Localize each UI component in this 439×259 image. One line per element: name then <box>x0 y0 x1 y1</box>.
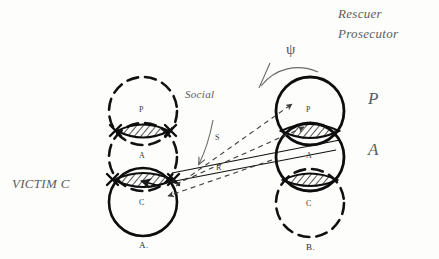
psychological-vector-mid <box>176 127 304 184</box>
annotation-victim: VICTIM C <box>12 176 70 192</box>
panel-b-label-p: P <box>306 105 311 114</box>
panel-a-caption: A. <box>139 240 149 250</box>
annotation-rescuer: Rescuer <box>338 6 382 22</box>
panel-b-label-c: C <box>306 199 312 208</box>
panel-a-overlap-pa <box>117 125 169 138</box>
panel-a-label-a: A <box>139 151 145 160</box>
panel-b-overlap-pa <box>281 124 339 138</box>
edge-label-s: S <box>215 133 219 142</box>
panel-a-label-p: P <box>139 105 144 114</box>
diagram-canvas: P A C P A C A. B. S R P A Social VICTIM … <box>0 0 439 259</box>
side-label-p: P <box>368 89 378 109</box>
edge-label-r: R <box>216 163 221 172</box>
panel-b-caption: B. <box>306 242 315 252</box>
panel-b-label-a: A <box>306 151 312 160</box>
side-label-a: A <box>368 140 378 160</box>
psi-symbol: ψ <box>286 41 295 58</box>
annotation-social: Social <box>185 88 214 100</box>
social-pointer-line <box>199 120 213 164</box>
panel-a-label-c: C <box>139 198 145 207</box>
annotation-prosecutor: Prosecutor <box>338 26 398 42</box>
